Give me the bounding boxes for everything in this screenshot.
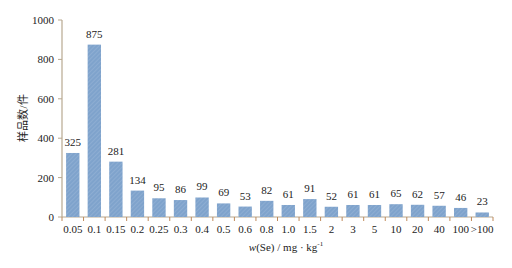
x-tick-label: 3 xyxy=(350,223,356,235)
bar-value-label: 82 xyxy=(261,184,272,196)
x-tick-label: 1.5 xyxy=(303,223,317,235)
bar xyxy=(260,201,273,217)
bar xyxy=(66,153,79,217)
bar-value-label: 61 xyxy=(347,188,358,200)
bar-value-label: 57 xyxy=(434,189,446,201)
bar-value-label: 325 xyxy=(65,136,82,148)
y-tick-label: 800 xyxy=(38,53,55,65)
bar xyxy=(131,191,144,217)
chart-canvas: 02004006008001000 0.050.10.150.20.250.30… xyxy=(0,0,512,268)
x-tick-label: 0.3 xyxy=(174,223,188,235)
x-tick-label: 0.6 xyxy=(238,223,252,235)
x-tick-label: 40 xyxy=(434,223,446,235)
x-tick-label: 0.05 xyxy=(63,223,83,235)
bar xyxy=(432,206,445,217)
bar xyxy=(411,205,424,217)
bar-value-label: 53 xyxy=(240,190,252,202)
bar xyxy=(303,199,316,217)
bar-value-label: 61 xyxy=(369,188,380,200)
y-axis: 02004006008001000 xyxy=(32,14,62,223)
x-tick-label: 20 xyxy=(412,223,424,235)
y-tick-label: 400 xyxy=(38,132,55,144)
bar-chart: 02004006008001000 0.050.10.150.20.250.30… xyxy=(0,0,512,268)
bar xyxy=(476,212,489,217)
bar-value-label: 69 xyxy=(218,186,230,198)
x-tick-label: 0.4 xyxy=(195,223,209,235)
bar-value-label: 86 xyxy=(175,183,187,195)
bar xyxy=(282,205,295,217)
x-tick-label: >100 xyxy=(471,223,494,235)
bar-value-label: 875 xyxy=(86,28,103,40)
bar xyxy=(195,197,208,217)
x-tick-label: 0.8 xyxy=(260,223,274,235)
bar-value-label: 134 xyxy=(129,174,146,186)
bar xyxy=(88,45,101,217)
bar-value-label: 91 xyxy=(304,182,315,194)
bar-value-label: 99 xyxy=(197,180,209,192)
x-tick-label: 2 xyxy=(329,223,335,235)
x-tick-label: 0.15 xyxy=(106,223,126,235)
x-tick-label: 0.25 xyxy=(149,223,169,235)
y-tick-label: 200 xyxy=(38,172,55,184)
bar xyxy=(109,162,122,217)
bar-value-label: 52 xyxy=(326,190,337,202)
x-tick-label: 100 xyxy=(452,223,469,235)
bar xyxy=(174,200,187,217)
bar-value-label: 23 xyxy=(477,195,489,207)
bar xyxy=(368,205,381,217)
bar-value-label: 65 xyxy=(391,187,403,199)
bar-value-label: 62 xyxy=(412,188,423,200)
bar xyxy=(346,205,359,217)
bar xyxy=(152,198,165,217)
y-axis-label: 样品数/件 xyxy=(16,94,29,141)
bar xyxy=(217,203,230,217)
y-tick-label: 1000 xyxy=(32,14,55,26)
x-tick-label: 1.0 xyxy=(281,223,295,235)
x-tick-label: 0.1 xyxy=(87,223,101,235)
bar xyxy=(389,204,402,217)
y-tick-label: 0 xyxy=(49,211,55,223)
bar-series xyxy=(66,45,489,217)
x-tick-label: 5 xyxy=(372,223,378,235)
bar-value-label: 46 xyxy=(455,191,467,203)
x-axis: 0.050.10.150.20.250.30.40.50.60.81.01.52… xyxy=(62,217,494,235)
bar-value-label: 95 xyxy=(153,181,165,193)
bar xyxy=(238,207,251,217)
bar xyxy=(454,208,467,217)
bar xyxy=(325,207,338,217)
bar-value-label: 281 xyxy=(108,145,125,157)
data-labels: 3258752811349586996953826191526161656257… xyxy=(65,28,489,208)
bar-value-label: 61 xyxy=(283,188,294,200)
y-tick-label: 600 xyxy=(38,93,55,105)
x-tick-label: 10 xyxy=(391,223,403,235)
x-tick-label: 0.2 xyxy=(131,223,145,235)
x-axis-label: w(Se) / mg · kg-1 xyxy=(249,240,324,254)
x-tick-label: 0.5 xyxy=(217,223,231,235)
